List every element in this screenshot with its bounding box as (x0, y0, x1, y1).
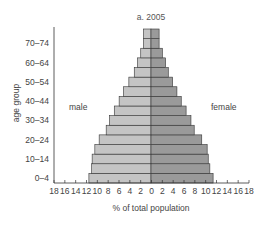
y-axis-title: age group (11, 84, 21, 123)
x-tick-label: 2 (138, 186, 143, 196)
female-bar (151, 173, 213, 183)
male-bar (114, 106, 151, 116)
x-tick-label: 16 (233, 186, 243, 196)
female-bar (151, 125, 194, 135)
female-bar (151, 39, 159, 49)
female-bar (151, 29, 159, 39)
male-bar (99, 135, 151, 145)
bars (89, 29, 213, 183)
male-bar (141, 48, 151, 58)
male-bar (92, 154, 151, 164)
x-tick-label: 12 (212, 186, 222, 196)
female-bar (151, 77, 173, 87)
y-tick-label: 20–24 (25, 135, 49, 145)
male-bar (119, 96, 151, 106)
y-tick-label: 70–74 (25, 38, 49, 48)
female-bar (151, 68, 168, 78)
female-bar (151, 145, 207, 155)
x-tick-label: 18 (49, 186, 59, 196)
female-bar (151, 58, 166, 68)
female-label: female (211, 102, 237, 112)
y-tick-label: 50–54 (25, 77, 49, 87)
female-bar (151, 116, 191, 126)
male-bar (92, 164, 151, 174)
female-bar (151, 87, 177, 97)
male-bar (129, 77, 151, 87)
male-bar (143, 39, 151, 49)
female-bar (151, 135, 202, 145)
male-bar (123, 87, 151, 97)
male-label: male (69, 102, 88, 112)
male-bar (134, 68, 151, 78)
female-bar (151, 154, 208, 164)
x-tick-label: 14 (223, 186, 233, 196)
x-tick-label: 10 (93, 186, 103, 196)
x-tick-label: 8 (192, 186, 197, 196)
male-bar (109, 116, 151, 126)
male-bar (95, 145, 151, 155)
x-tick-label: 10 (201, 186, 211, 196)
x-axis-title: % of total population (112, 203, 189, 213)
x-tick-label: 6 (182, 186, 187, 196)
x-tick-label: 6 (117, 186, 122, 196)
y-tick-label: 60–64 (25, 58, 49, 68)
x-tick-label: 16 (60, 186, 70, 196)
y-tick-label: 40–44 (25, 96, 49, 106)
x-axis-ticks: 18161412108642024681012141618 (49, 180, 254, 196)
x-tick-label: 0 (149, 186, 154, 196)
male-bar (106, 125, 151, 135)
male-bar (143, 29, 151, 39)
x-tick-label: 12 (82, 186, 92, 196)
y-axis-labels: 0–410–1420–2430–3440–4450–5460–6470–74 (25, 38, 49, 183)
x-tick-label: 8 (106, 186, 111, 196)
x-tick-label: 14 (71, 186, 81, 196)
y-tick-label: 30–34 (25, 115, 49, 125)
y-tick-label: 0–4 (35, 173, 49, 183)
x-tick-label: 2 (160, 186, 165, 196)
male-bar (138, 58, 152, 68)
x-tick-label: 4 (171, 186, 176, 196)
female-bar (151, 48, 162, 58)
x-tick-label: 18 (244, 186, 254, 196)
female-bar (151, 106, 186, 116)
x-tick-label: 4 (127, 186, 132, 196)
population-pyramid-chart: a. 2005 18161412108642024681012141618 0–… (0, 0, 265, 229)
male-bar (89, 173, 151, 183)
female-bar (151, 96, 181, 106)
y-tick-label: 10–14 (25, 154, 49, 164)
female-bar (151, 164, 210, 174)
chart-title: a. 2005 (137, 12, 166, 22)
